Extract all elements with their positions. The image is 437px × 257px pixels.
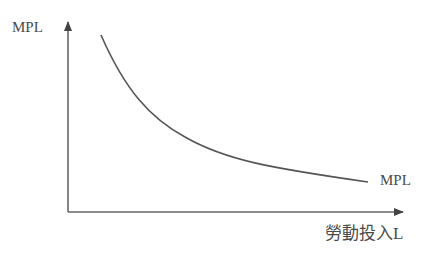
curve-label: MPL — [380, 172, 411, 189]
y-axis-label: MPL — [12, 19, 43, 36]
x-axis-label: 勞動投入L — [325, 219, 403, 244]
mpl-curve — [101, 35, 368, 182]
